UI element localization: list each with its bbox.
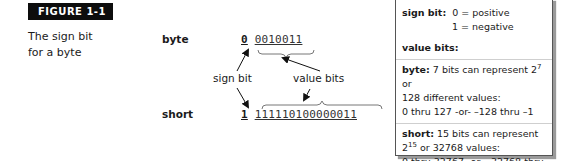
sign-bit-annotation: sign bit <box>213 72 252 84</box>
legend-panel: sign bit: 0 = positive 1 = negative valu… <box>395 0 553 156</box>
byte-legend-or: or <box>402 78 412 89</box>
sign-bit-legend: sign bit: 0 = positive <box>402 6 546 20</box>
sign-bit-negative: 1 = negative <box>402 20 546 34</box>
short-legend-line1: short: 15 bits can represent <box>402 127 546 141</box>
byte-legend-text: 7 bits can represent 2 <box>433 64 537 75</box>
byte-value-brace <box>258 50 314 58</box>
byte-legend-line1: byte: 7 bits can represent 27 or <box>402 63 546 91</box>
short-legend-text: 15 bits can represent <box>437 128 538 139</box>
divider <box>396 123 552 124</box>
short-label: short <box>162 108 193 120</box>
byte-value-bits: 0010011 <box>255 33 303 46</box>
byte-label: byte <box>162 33 189 45</box>
sign-bit-arrow-up <box>237 50 248 71</box>
short-exponent: 15 <box>408 141 417 149</box>
byte-exponent: 7 <box>537 63 541 71</box>
value-bits-title-text: value bits: <box>402 42 458 53</box>
divider <box>396 59 552 60</box>
short-legend-line2: 215 or 32768 values: <box>402 141 546 155</box>
short-legend-values: or 32768 values: <box>417 142 500 153</box>
short-legend-range: 0 thru 32767 -or- –32768 thru –1 <box>402 155 546 161</box>
short-legend-title: short: <box>402 128 434 139</box>
byte-legend-line2: 128 different values: <box>402 91 546 105</box>
value-bits-annotation: value bits <box>293 72 344 84</box>
value-bits-arrow-up <box>283 58 320 71</box>
short-bits: 1 111110100000011 <box>241 108 357 121</box>
byte-sign-bit: 0 <box>241 33 248 46</box>
short-value-bits: 111110100000011 <box>255 108 357 121</box>
short-sign-bit: 1 <box>241 108 248 121</box>
value-bits-title: value bits: <box>402 41 546 55</box>
sign-bit-arrow-down <box>237 88 248 107</box>
sign-bit-positive: 0 = positive <box>452 7 509 18</box>
byte-bits: 0 0010011 <box>241 33 302 46</box>
value-bits-arrow-down <box>304 89 310 100</box>
byte-legend-range: 0 thru 127 -or- –128 thru –1 <box>402 105 546 119</box>
byte-legend-title: byte: <box>402 64 430 75</box>
sign-bit-title: sign bit: <box>402 7 446 18</box>
